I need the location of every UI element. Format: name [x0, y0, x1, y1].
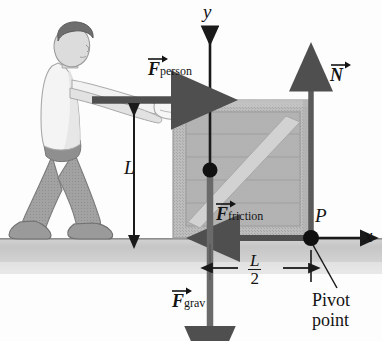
pivot-point-line2: point [312, 310, 350, 330]
annotation-pivot-point: Pivot point [312, 290, 350, 330]
vector-arrow-hat-grav [171, 285, 193, 295]
center-of-mass-dot [203, 163, 218, 178]
figure-canvas: y x P F person N F [0, 0, 382, 341]
ground [0, 238, 382, 274]
dimension-label-L: L [124, 158, 135, 177]
f-person-subscript: person [160, 64, 192, 78]
vector-arrow-hat-n [330, 59, 352, 69]
axis-label-x: x [364, 226, 372, 245]
dimension-label-L-half: L 2 [248, 252, 261, 288]
vector-label-n: N [330, 66, 343, 84]
axis-label-y: y [203, 2, 211, 21]
vector-label-f-grav: F grav [172, 292, 205, 310]
l-half-denominator: 2 [248, 270, 261, 287]
l-half-numerator: L [248, 252, 261, 270]
vector-arrow-hat-friction [215, 198, 237, 208]
vector-label-f-person: F person [148, 60, 192, 78]
pivot-label-p: P [315, 206, 327, 225]
f-friction-subscript: friction [228, 209, 263, 223]
pivot-point-line1: Pivot [312, 290, 350, 310]
vector-label-f-friction: F friction [216, 205, 263, 223]
f-grav-subscript: grav [184, 296, 205, 310]
vector-arrow-hat-person [147, 53, 169, 63]
